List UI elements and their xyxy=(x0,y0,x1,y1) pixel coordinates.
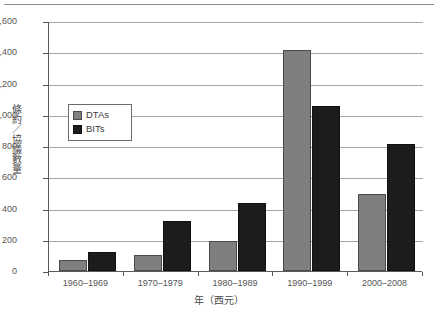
legend-label-dtas: DTAs xyxy=(86,110,109,120)
x-tick-mark xyxy=(198,272,199,276)
page-top-rule xyxy=(4,4,434,5)
chart-legend: DTAs BITs xyxy=(68,104,132,141)
bar-dtas xyxy=(283,50,311,271)
x-tick-label: 1970–1979 xyxy=(117,279,203,288)
bar-dtas xyxy=(209,241,237,271)
plot-area xyxy=(48,22,422,272)
bar-dtas xyxy=(134,255,162,271)
y-tick-label: 1,200 xyxy=(0,80,17,89)
bar-bits xyxy=(312,106,340,271)
x-tick-label: 1960–1969 xyxy=(42,279,128,288)
bar-dtas xyxy=(59,260,87,271)
x-axis-title: 年（西元） xyxy=(0,292,438,307)
y-tick-label: 400 xyxy=(0,205,17,214)
y-tick-label: 1,400 xyxy=(0,48,17,57)
x-tick-label: 1990–1999 xyxy=(267,279,353,288)
legend-item-bits: BITs xyxy=(73,122,127,136)
bar-group xyxy=(273,21,348,271)
gray-square-swatch xyxy=(73,111,82,120)
x-tick-mark xyxy=(347,272,348,276)
x-tick-label: 2000–2008 xyxy=(342,279,428,288)
x-tick-mark xyxy=(272,272,273,276)
bar-bits xyxy=(238,203,266,271)
bar-group xyxy=(199,21,274,271)
y-tick-label: 200 xyxy=(0,236,17,245)
bar-group xyxy=(348,21,423,271)
black-square-swatch xyxy=(73,125,82,134)
y-tick-label: 600 xyxy=(0,173,17,182)
legend-label-bits: BITs xyxy=(86,124,104,134)
bar-group xyxy=(124,21,199,271)
bar-bits xyxy=(163,221,191,271)
bar-bits xyxy=(387,144,415,271)
x-tick-mark xyxy=(48,272,49,276)
x-tick-mark xyxy=(123,272,124,276)
bar-dtas xyxy=(358,194,386,271)
y-tick-label: 0 xyxy=(0,267,17,276)
chart-figure: 條約／協議數量 02004006008001,0001,2001,4001,60… xyxy=(0,0,438,309)
x-tick-label: 1980–1989 xyxy=(192,279,278,288)
y-tick-label: 1,600 xyxy=(0,17,17,26)
y-tick-label: 1,000 xyxy=(0,111,17,120)
bar-group xyxy=(49,21,124,271)
y-tick-label: 800 xyxy=(0,142,17,151)
legend-item-dtas: DTAs xyxy=(73,108,127,122)
x-tick-mark xyxy=(422,272,423,276)
bar-bits xyxy=(88,252,116,271)
